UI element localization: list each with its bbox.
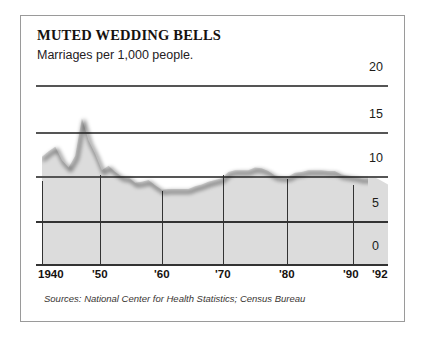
x-tick-label-1960: '60 <box>154 268 170 280</box>
x-tick-label-1990: '90 <box>343 268 359 280</box>
x-tick-label-1970: '70 <box>215 268 231 280</box>
area-fill <box>42 118 388 265</box>
x-tick-label-1992: '92 <box>372 268 388 280</box>
y-tick-label-0: 0 <box>372 239 379 253</box>
x-tick-label-1980: '80 <box>279 268 295 280</box>
chart-figure: MUTED WEDDING BELLS Marriages per 1,000 … <box>0 0 427 343</box>
source-note: Sources: National Center for Health Stat… <box>44 293 305 304</box>
x-tick-label-1940: 1940 <box>38 268 64 280</box>
x-tick-label-1950: '50 <box>92 268 108 280</box>
y-tick-label-10: 10 <box>369 151 383 165</box>
y-tick-label-15: 15 <box>369 107 383 121</box>
y-tick-label-5: 5 <box>372 196 379 210</box>
y-tick-label-20: 20 <box>369 60 383 74</box>
